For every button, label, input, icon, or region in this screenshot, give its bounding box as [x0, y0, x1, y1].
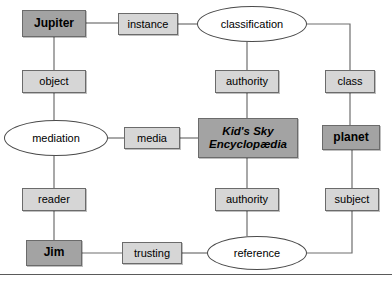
node-label-reader: reader — [38, 193, 70, 205]
node-jupiter[interactable]: Jupiter — [22, 10, 86, 37]
node-label-mediation: mediation — [32, 132, 80, 144]
node-trusting[interactable]: trusting — [122, 242, 182, 264]
node-encyclopaedia[interactable]: Kid's SkyEncyclopædia — [198, 118, 298, 158]
node-label-classification: classification — [221, 18, 283, 30]
node-label-media: media — [137, 132, 167, 144]
node-label-class: class — [337, 75, 362, 87]
node-object[interactable]: object — [22, 70, 86, 93]
node-reader[interactable]: reader — [22, 188, 86, 211]
node-media[interactable]: media — [124, 127, 180, 149]
node-planet[interactable]: planet — [322, 125, 380, 150]
node-jim[interactable]: Jim — [26, 240, 82, 266]
node-subject[interactable]: subject — [325, 188, 379, 211]
node-label-subject: subject — [335, 193, 370, 205]
node-label-authority_bot: authority — [226, 193, 268, 205]
edge-classification-class — [307, 24, 350, 70]
node-mediation[interactable]: mediation — [4, 120, 108, 156]
bottom-rule — [0, 274, 392, 275]
node-label-instance: instance — [128, 18, 169, 30]
node-label-jim: Jim — [44, 246, 65, 259]
node-label-planet: planet — [333, 131, 368, 144]
node-label-object: object — [39, 75, 68, 87]
node-authority_top[interactable]: authority — [215, 70, 279, 93]
edge-reference-subject — [307, 211, 352, 253]
node-label-encyclopaedia: Kid's SkyEncyclopædia — [209, 125, 287, 151]
node-label-reference: reference — [234, 247, 280, 259]
node-instance[interactable]: instance — [118, 13, 178, 35]
node-reference[interactable]: reference — [207, 236, 307, 270]
diagram-canvas: Jupiterinstanceclassificationobjectautho… — [0, 0, 392, 282]
node-label-trusting: trusting — [134, 247, 170, 259]
node-authority_bot[interactable]: authority — [215, 188, 279, 211]
node-label-jupiter: Jupiter — [34, 17, 74, 30]
node-label-authority_top: authority — [226, 75, 268, 87]
node-classification[interactable]: classification — [197, 6, 307, 42]
node-class[interactable]: class — [325, 70, 375, 93]
